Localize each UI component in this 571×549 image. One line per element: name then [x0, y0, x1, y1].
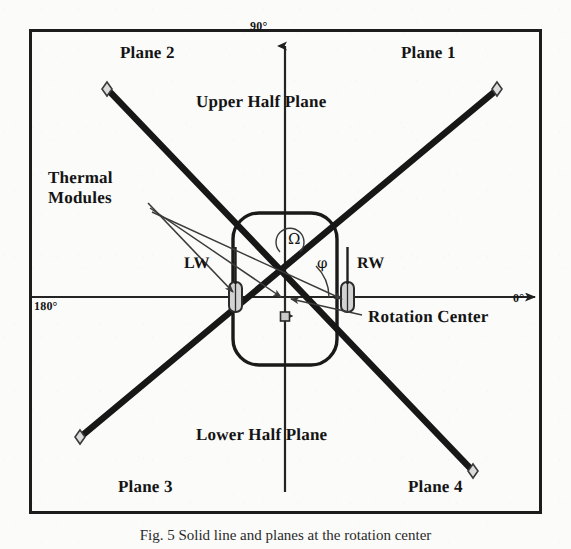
thermal-modules-callout: Thermal Modules [48, 168, 113, 208]
omega-symbol: Ω [288, 232, 301, 248]
thermal-modules-callout-line2: Modules [48, 188, 113, 208]
rotation-center-marker [281, 297, 290, 321]
upper-half-plane-label: Upper Half Plane [196, 93, 326, 111]
plane-label-2: Plane 2 [120, 44, 175, 62]
thermal-modules-callout-line1: Thermal [48, 168, 113, 188]
axis-label-90: 90° [250, 20, 267, 33]
figure-caption: Fig. 5 Solid line and planes at the rota… [0, 527, 571, 549]
lower-half-plane-label: Lower Half Plane [196, 426, 327, 444]
diagram-canvas [0, 0, 571, 549]
plane-label-1: Plane 1 [401, 44, 456, 62]
figure-root: 90° 180° 0° Plane 1 Plane 2 Plane 3 Plan… [0, 0, 571, 549]
phi-symbol: φ [317, 256, 328, 272]
plane-label-4: Plane 4 [408, 478, 463, 496]
axis-label-180: 180° [34, 300, 58, 313]
rw-module-label: RW [357, 256, 384, 273]
plane-label-3: Plane 3 [118, 478, 173, 496]
plane-line-1-3 [84, 93, 493, 434]
lw-module-label: LW [184, 256, 210, 273]
axis-label-0: 0° [513, 292, 524, 305]
thermal-module-lw-marker [229, 282, 242, 312]
plane-line-2-4 [111, 93, 470, 468]
rotation-center-callout: Rotation Center [368, 308, 489, 326]
thermal-module-rw-marker [341, 282, 354, 312]
